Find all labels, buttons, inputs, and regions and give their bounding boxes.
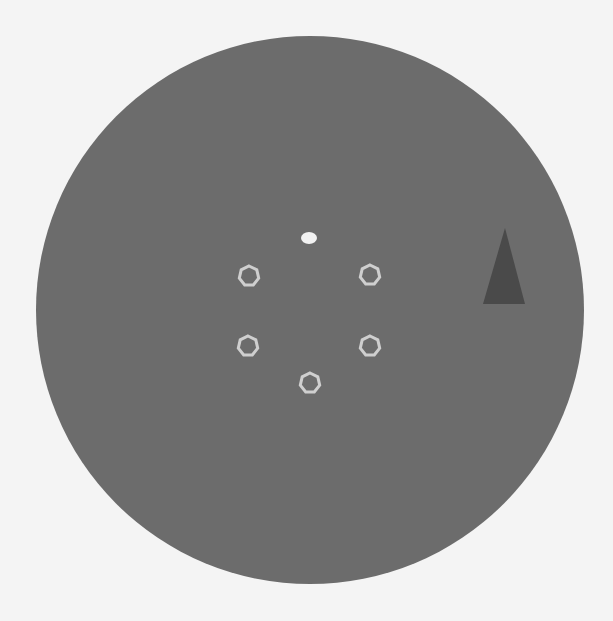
arena-layer: [0, 0, 613, 621]
ring-target[interactable]: [300, 373, 319, 392]
ring-target[interactable]: [360, 336, 379, 355]
ring-target[interactable]: [360, 265, 379, 284]
triangle-marker: [483, 228, 525, 304]
ring-targets: [238, 265, 379, 392]
ring-target[interactable]: [238, 336, 257, 355]
player-blob[interactable]: [301, 232, 317, 244]
ring-target[interactable]: [239, 266, 258, 285]
